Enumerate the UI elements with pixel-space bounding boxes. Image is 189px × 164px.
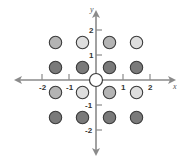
point-medium-circle: [103, 36, 115, 48]
x-axis-label: x: [172, 82, 177, 91]
point-light-circle: [130, 36, 142, 48]
point-light-circle: [130, 86, 142, 98]
point-dark-circle: [76, 111, 88, 123]
point-medium-circle: [49, 86, 61, 98]
point-dark-circle: [49, 111, 61, 123]
point-dark-circle: [49, 61, 61, 73]
point-dark-circle: [103, 61, 115, 73]
point-dark-circle: [103, 111, 115, 123]
x-tick-label: 1: [121, 83, 126, 92]
y-tick-label: -2: [85, 126, 93, 135]
y-tick-label: 1: [89, 51, 94, 60]
point-medium-circle: [103, 86, 115, 98]
point-light-circle: [76, 36, 88, 48]
point-dark-circle: [130, 61, 142, 73]
y-tick-label: 2: [89, 26, 94, 35]
coordinate-plane-diagram: xy -2-11221-1-2: [0, 0, 189, 164]
y-tick-label: -1: [85, 101, 93, 110]
x-tick-label: 2: [148, 83, 153, 92]
point-medium-circle: [49, 36, 61, 48]
point-dark-circle: [76, 61, 88, 73]
y-axis-label: y: [89, 5, 94, 14]
origin-circle: [90, 74, 103, 87]
point-light-circle: [76, 86, 88, 98]
point-dark-circle: [130, 111, 142, 123]
x-tick-label: -2: [39, 83, 47, 92]
x-tick-label: -1: [66, 83, 74, 92]
